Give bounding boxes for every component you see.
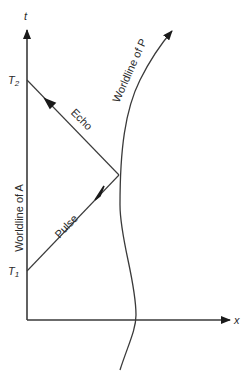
spacetime-diagram: t x T2 T1 Worldline of A Pulse Echo Worl… xyxy=(0,0,252,386)
t-axis-label: t xyxy=(24,10,28,22)
t1-label: T1 xyxy=(8,265,19,279)
t2-label: T2 xyxy=(8,74,20,88)
pulse-arrowhead xyxy=(95,186,104,200)
echo-ray xyxy=(27,80,119,175)
worldline-a-label: Worldline of A xyxy=(13,184,25,252)
worldline-p-label: Worldline of P xyxy=(110,37,149,104)
x-axis-label: x xyxy=(233,314,240,326)
echo-label: Echo xyxy=(69,106,95,132)
pulse-label: Pulse xyxy=(52,212,80,240)
